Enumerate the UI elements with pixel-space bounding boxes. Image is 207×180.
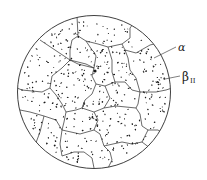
beta-symbol: β: [182, 70, 189, 84]
microstructure-diagram: [0, 0, 207, 180]
beta-leader-line: [165, 76, 180, 79]
alpha-phase-label: α: [178, 41, 185, 54]
beta-subscript: II: [190, 77, 196, 85]
beta-particles: [21, 21, 166, 163]
beta-phase-label: βII: [182, 70, 195, 85]
